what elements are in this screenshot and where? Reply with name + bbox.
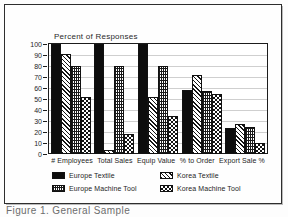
x-axis-label: # Employees: [51, 157, 93, 164]
legend-item: Korea Machine Tool: [160, 185, 264, 192]
scanned-page: Percent of Responses 1009080706050403020…: [0, 0, 288, 217]
bar-group: [94, 44, 134, 154]
y-axis-tick-label: 50: [34, 96, 42, 103]
y-axis-tick-mark: [43, 121, 47, 122]
legend-label: Korea Textile: [177, 172, 219, 179]
legend-item: Europe Machine Tool: [52, 185, 160, 192]
legend-swatch-icon: [160, 172, 173, 179]
bar: [81, 97, 91, 154]
y-axis-tick-mark: [43, 77, 47, 78]
y-axis-tick-mark: [43, 110, 47, 111]
bar-groups: [49, 44, 267, 154]
bar: [124, 134, 134, 154]
y-axis-tick-label: 60: [34, 85, 42, 92]
page-border: Percent of Responses 1009080706050403020…: [4, 4, 282, 204]
bar: [51, 44, 61, 154]
y-axis-tick-label: 20: [34, 129, 42, 136]
bar: [104, 150, 114, 154]
y-axis-tick-label: 30: [34, 118, 42, 125]
bar-group: [225, 44, 265, 154]
bar: [225, 128, 235, 154]
figure-caption: Figure 1. General Sample: [6, 205, 206, 217]
chart-legend: Europe TextileKorea TextileEurope Machin…: [52, 172, 264, 192]
legend-item: Europe Textile: [52, 172, 160, 179]
y-axis-tick-mark: [43, 143, 47, 144]
bar: [61, 54, 71, 154]
bar: [245, 127, 255, 155]
bar: [71, 66, 81, 154]
bar: [138, 44, 148, 154]
x-axis-label: Equip Value: [137, 157, 175, 164]
bar-group: [182, 44, 222, 154]
y-axis-tick-label: 70: [34, 74, 42, 81]
y-axis-tick-label: 80: [34, 63, 42, 70]
y-axis-tick-mark: [43, 99, 47, 100]
bar: [235, 124, 245, 154]
bar: [158, 66, 168, 154]
x-axis-labels: # EmployeesTotal SalesEquip Value% to Or…: [49, 157, 267, 164]
bar: [255, 143, 265, 154]
y-axis-tick-mark: [43, 55, 47, 56]
bar-group: [51, 44, 91, 154]
bar: [212, 94, 222, 155]
bar: [168, 116, 178, 155]
y-axis-tick-label: 40: [34, 107, 42, 114]
legend-label: Europe Textile: [69, 172, 115, 179]
y-axis-tick-label: 100: [30, 41, 42, 48]
bar: [114, 66, 124, 154]
legend-label: Korea Machine Tool: [177, 185, 241, 192]
bar: [182, 90, 192, 154]
y-axis-tick-mark: [43, 154, 47, 155]
bar: [94, 44, 104, 154]
bar-group: [138, 44, 178, 154]
legend-swatch-icon: [160, 185, 173, 192]
bar: [192, 75, 202, 154]
y-axis-tick-label: 90: [34, 52, 42, 59]
y-axis-tick-mark: [43, 66, 47, 67]
x-axis-label: Total Sales: [97, 157, 132, 164]
y-axis-tick-label: 10: [34, 140, 42, 147]
bar: [202, 91, 212, 154]
y-axis-tick-mark: [43, 88, 47, 89]
legend-swatch-icon: [52, 185, 65, 192]
y-axis-tick-mark: [43, 44, 47, 45]
chart-title: Percent of Responses: [54, 32, 138, 41]
bar: [148, 97, 158, 154]
y-axis: 1009080706050403020100: [14, 43, 48, 155]
x-axis-label: % to Order: [180, 157, 215, 164]
y-axis-tick-label: 0: [38, 151, 42, 158]
legend-label: Europe Machine Tool: [69, 185, 137, 192]
legend-item: Korea Textile: [160, 172, 264, 179]
y-axis-tick-mark: [43, 132, 47, 133]
bar-chart: Percent of Responses 1009080706050403020…: [14, 14, 282, 199]
x-axis-label: Export Sale %: [219, 157, 265, 164]
legend-swatch-icon: [52, 172, 65, 179]
